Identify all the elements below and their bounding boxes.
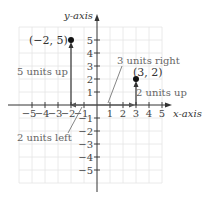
svg-text:2: 2 [120, 108, 126, 119]
point-label-3-2: (3, 2) [133, 66, 163, 79]
y-axis-label: y-axis [63, 10, 93, 21]
svg-text:4: 4 [87, 48, 93, 59]
x-axis-arrow-icon [165, 103, 172, 108]
svg-text:−3: −3 [78, 139, 93, 150]
svg-text:−2: −2 [78, 126, 93, 137]
annotation-three-right: 3 units right [117, 55, 180, 66]
annotation-five-up: 5 units up [17, 66, 68, 77]
y-axis [95, 14, 100, 192]
x-axis-label: x-axis [173, 108, 202, 119]
point-neg2-5 [68, 37, 74, 43]
svg-text:−1: −1 [78, 113, 93, 124]
y-axis-arrow-icon [95, 14, 100, 21]
svg-text:−4: −4 [78, 152, 93, 163]
svg-text:1: 1 [107, 108, 113, 119]
arrow-right-icon [129, 103, 135, 108]
svg-text:−5: −5 [78, 165, 93, 176]
svg-text:2: 2 [87, 74, 93, 85]
coordinate-plane: −5 −4 −3 −2 −1 1 2 3 4 5 5 4 3 2 1 −1 −2… [0, 0, 208, 200]
svg-text:1: 1 [87, 87, 93, 98]
svg-text:5: 5 [159, 108, 165, 119]
svg-text:3: 3 [133, 108, 139, 119]
svg-text:4: 4 [146, 108, 152, 119]
point-label-neg2-5: (−2, 5) [29, 34, 68, 47]
x-tick-labels: −5 −4 −3 −2 −1 1 2 3 4 5 [22, 108, 166, 119]
path-to-3-2 [97, 81, 139, 108]
annotation-two-left: 2 units left [17, 132, 72, 143]
svg-text:5: 5 [87, 35, 93, 46]
svg-text:3: 3 [87, 61, 93, 72]
annotation-two-up: 2 units up [136, 87, 187, 98]
